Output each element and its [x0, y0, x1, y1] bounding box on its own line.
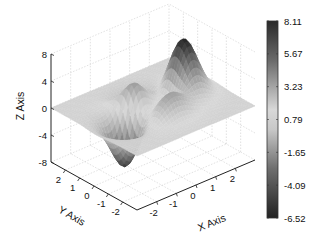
colorbar-tick-label: 3.23 — [284, 81, 303, 92]
x-tick-label: -2 — [149, 207, 157, 218]
z-tick-label: 4 — [42, 76, 47, 87]
colorbar-tick-label: 0.79 — [284, 114, 303, 125]
z-tick-label: -8 — [39, 157, 47, 168]
z-axis-label: Z Axis — [14, 92, 26, 121]
colorbar-tick-label: -6.52 — [284, 213, 306, 224]
x-tick-label: 1 — [210, 182, 215, 193]
colorbar-tick-label: -4.09 — [284, 180, 306, 191]
colorbar-tick-label: -1.65 — [284, 147, 306, 158]
z-tick-label: -4 — [39, 130, 47, 141]
surface-mesh — [51, 39, 255, 167]
y-tick-label: -1 — [97, 198, 105, 209]
z-tick-label: 0 — [42, 103, 47, 114]
colorbar-tick-label: 5.67 — [284, 48, 303, 59]
z-tick-label: 8 — [42, 49, 47, 60]
y-tick-label: 0 — [84, 190, 89, 201]
y-axis-label: Y Axis — [56, 203, 87, 228]
x-tick-label: 2 — [230, 173, 235, 184]
x-tick-label: 0 — [190, 190, 195, 201]
x-axis-label: X Axis — [196, 211, 228, 233]
surface-plot-svg: 840-4-8210-1-2-2-1012Z AxisY AxisX Axis … — [0, 0, 322, 242]
x-tick-label: -1 — [169, 198, 177, 209]
y-tick-label: -2 — [111, 206, 119, 217]
surface-plot: 840-4-8210-1-2-2-1012Z AxisY AxisX Axis … — [0, 0, 322, 242]
colorbar-tick-label: 8.11 — [284, 16, 302, 27]
y-tick-label: 1 — [70, 182, 75, 193]
y-tick-label: 2 — [56, 174, 61, 185]
